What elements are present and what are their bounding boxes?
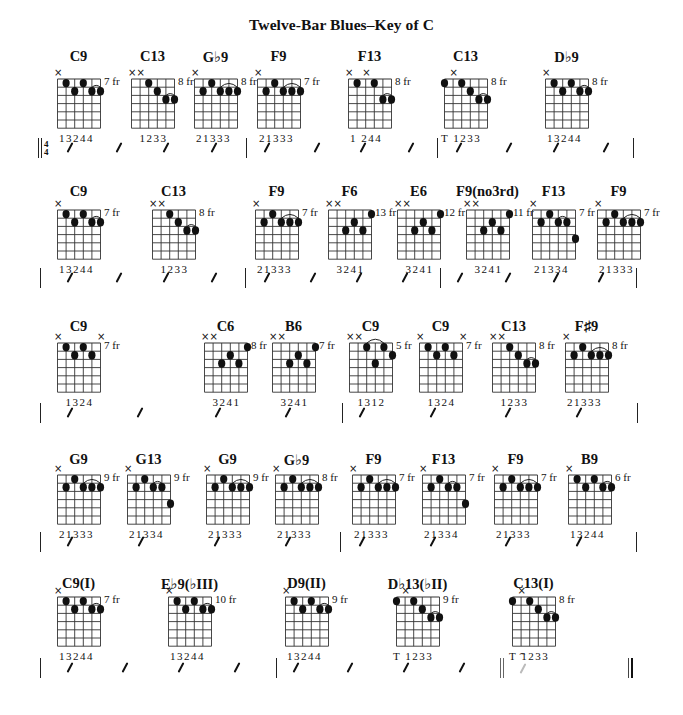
finger-dot [97,87,104,95]
finger-dot [380,343,387,351]
finger-dot [419,605,426,613]
muted-string-icon: × [529,199,537,209]
rhythm-slash [506,142,513,153]
finger-dot [534,483,541,491]
fret-position: 6 fr [615,471,631,483]
finger-dot [162,95,169,103]
finger-dot [88,483,95,491]
finger-dot [579,343,586,351]
rhythm-slash [293,662,300,673]
finger-dot [80,210,87,218]
finger-dot [158,483,165,491]
finger-dot [410,597,417,605]
finger-dot [517,483,524,491]
finger-dot [200,87,207,95]
barline [631,658,634,678]
finger-dot [582,483,589,491]
finger-dot [191,597,198,605]
rhythm-slash [122,662,129,673]
muted-string-icon: × [489,332,497,342]
muted-string-icon: × [394,199,402,209]
muted-string-icon: × [282,586,290,596]
finger-dot [445,483,452,491]
finger-dot [235,359,242,367]
fret-position: 9 fr [174,471,190,483]
finger-dot [306,483,313,491]
finger-dot [269,210,276,218]
chord-name: F♯9 [547,318,627,335]
muted-string-icon: × [128,68,136,78]
fret-position: 7 fr [399,471,415,483]
fret-position: 7 fr [104,339,120,351]
finger-dot [218,359,225,367]
finger-dot [217,87,224,95]
finger-dot [354,79,361,87]
muted-string-icon: × [203,464,211,474]
barline [276,658,277,678]
finger-dot [526,597,533,605]
finger-dot [182,605,189,613]
finger-dot [620,218,627,226]
muted-string-icon: × [355,332,363,342]
rhythm-slash [116,272,123,283]
muted-string-icon: × [403,199,411,209]
fret-position: 8 fr [559,593,575,605]
finger-dot [525,483,532,491]
rhythm-slash [285,407,292,418]
rhythm-slash [505,272,512,283]
fret-position: 7 fr [469,471,485,483]
finger-dot [458,79,465,87]
finger-dot [212,483,219,491]
finger-dot [308,597,315,605]
finger-dot [88,605,95,613]
finger-dot [88,218,95,226]
finger-dot [150,483,157,491]
rhythm-staff [0,532,683,562]
finger-dot [281,483,288,491]
chord-name: C13 [134,183,214,200]
finger-dot [379,95,386,103]
barline [633,138,634,158]
muted-string-icon: × [149,199,157,209]
finger-dot [291,597,298,605]
finger-dot [97,605,104,613]
rhythm-slash [67,142,74,153]
barline [340,532,341,552]
finger-dot [261,218,268,226]
finger-dot [295,351,302,359]
muted-string-icon: × [345,68,353,78]
finger-dot [509,597,516,605]
finger-dot [175,218,182,226]
rhythm-slash [598,272,605,283]
finger-dot [568,79,575,87]
finger-dot [246,483,253,491]
finger-dot [297,87,304,95]
finger-dot [80,343,87,351]
barline [40,268,41,288]
finger-dot [433,351,440,359]
barline [636,532,637,552]
finger-dot [71,475,78,483]
finger-dot [174,597,181,605]
muted-string-icon: × [54,586,62,596]
fret-position: 12 fr [444,206,465,218]
chord-name: G13 [109,451,189,468]
finger-dot [80,597,87,605]
finger-dot [475,95,482,103]
barline [40,403,41,423]
finger-dot [543,613,550,621]
fermata-icon: ⌢ [519,647,526,659]
rhythm-slash [116,142,123,153]
finger-dot [133,483,140,491]
finger-dot [166,210,173,218]
finger-dot [425,343,432,351]
chord-name: F13 [330,48,410,65]
finger-dot [263,87,270,95]
finger-dot [298,483,305,491]
muted-string-icon: × [463,199,471,209]
finger-dot [371,79,378,87]
rhythm-slash [359,536,366,547]
rhythm-slash [138,536,145,547]
finger-dot [97,218,104,226]
finger-dot [551,79,558,87]
